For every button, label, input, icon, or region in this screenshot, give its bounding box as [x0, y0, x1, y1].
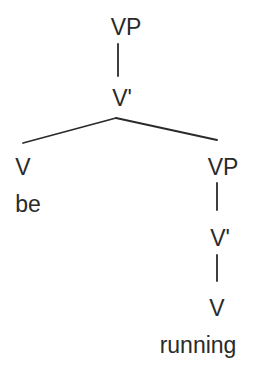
- node-right-vp: VP: [208, 156, 239, 179]
- node-left-v: V: [15, 156, 30, 179]
- node-root-vp: VP: [111, 16, 142, 39]
- word-be: be: [15, 193, 41, 216]
- node-right-v: V: [209, 297, 224, 320]
- edge-vbar-to-left-v: [23, 118, 116, 143]
- word-running: running: [160, 334, 237, 357]
- node-right-vbar: V': [210, 227, 230, 250]
- node-root-vbar: V': [112, 87, 132, 110]
- edge-vbar-to-right-vp: [116, 118, 217, 140]
